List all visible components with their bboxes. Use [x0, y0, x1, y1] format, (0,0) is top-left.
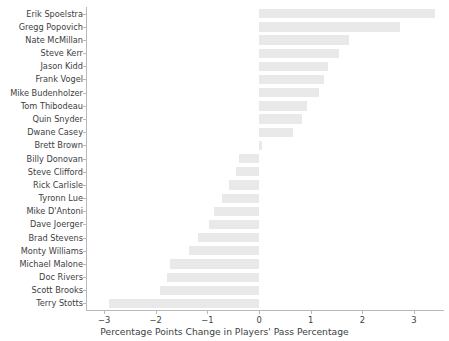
y-tick-mark: [83, 79, 86, 80]
y-tick-mark: [83, 264, 86, 265]
x-tick-label: −1: [192, 315, 222, 325]
x-tick-label: −2: [141, 315, 171, 325]
y-tick-mark: [83, 198, 86, 199]
x-tick-label: 1: [296, 315, 326, 325]
y-tick-label: Mike Budenholzer: [10, 88, 83, 98]
y-tick-label: Erik Spoelstra: [26, 9, 83, 19]
y-tick-mark: [83, 224, 86, 225]
x-axis-spine: [86, 310, 444, 311]
y-tick-mark: [83, 40, 86, 41]
y-tick-label: Mike D'Antoni: [27, 206, 83, 216]
x-tick-mark: [311, 311, 312, 314]
y-tick-label: Brad Stevens: [28, 233, 83, 243]
y-tick-label: Rick Carlisle: [33, 180, 83, 190]
x-tick-mark: [156, 311, 157, 314]
x-tick-label: 3: [399, 315, 429, 325]
y-tick-mark: [83, 290, 86, 291]
y-tick-label: Doc Rivers: [39, 272, 83, 282]
y-tick-mark: [83, 185, 86, 186]
y-tick-mark: [83, 211, 86, 212]
bar-chart-figure: Erik SpoelstraGregg PopovichNate McMilla…: [0, 0, 449, 341]
y-tick-label: Brett Brown: [34, 140, 83, 150]
y-tick-label: Frank Vogel: [35, 74, 83, 84]
y-tick-label: Monty Williams: [21, 246, 83, 256]
y-tick-label: Terry Stotts: [36, 298, 83, 308]
y-tick-label: Jason Kidd: [40, 61, 83, 71]
x-tick-label: −3: [89, 315, 119, 325]
y-tick-label: Michael Malone: [19, 259, 83, 269]
x-tick-mark: [414, 311, 415, 314]
x-tick-label: 0: [244, 315, 274, 325]
y-tick-mark: [83, 53, 86, 54]
y-tick-mark: [83, 14, 86, 15]
y-tick-mark: [83, 251, 86, 252]
y-tick-label: Tom Thibodeau: [21, 101, 83, 111]
x-axis-title: Percentage Points Change in Players' Pas…: [0, 326, 449, 337]
x-tick-mark: [362, 311, 363, 314]
y-tick-mark: [83, 132, 86, 133]
x-tick-mark: [104, 311, 105, 314]
y-tick-label: Billy Donovan: [27, 154, 83, 164]
y-tick-mark: [83, 145, 86, 146]
y-tick-label: Gregg Popovich: [19, 22, 83, 32]
x-tick-mark: [207, 311, 208, 314]
y-tick-mark: [83, 159, 86, 160]
y-tick-label: Scott Brooks: [31, 285, 83, 295]
y-tick-label: Dwane Casey: [27, 127, 83, 137]
y-tick-mark: [83, 277, 86, 278]
y-tick-mark: [83, 106, 86, 107]
y-tick-mark: [83, 66, 86, 67]
x-tick-label: 2: [347, 315, 377, 325]
y-tick-labels: Erik SpoelstraGregg PopovichNate McMilla…: [0, 7, 449, 310]
y-tick-mark: [83, 27, 86, 28]
y-tick-label: Steve Clifford: [28, 167, 83, 177]
y-tick-label: Tyronn Lue: [39, 193, 83, 203]
y-tick-mark: [83, 172, 86, 173]
y-tick-label: Nate McMillan: [25, 35, 83, 45]
y-tick-label: Quin Snyder: [32, 114, 83, 124]
y-tick-mark: [83, 303, 86, 304]
y-tick-mark: [83, 119, 86, 120]
y-tick-label: Steve Kerr: [40, 48, 83, 58]
y-tick-label: Dave Joerger: [30, 219, 83, 229]
y-tick-mark: [83, 238, 86, 239]
x-tick-mark: [259, 311, 260, 314]
y-tick-mark: [83, 93, 86, 94]
